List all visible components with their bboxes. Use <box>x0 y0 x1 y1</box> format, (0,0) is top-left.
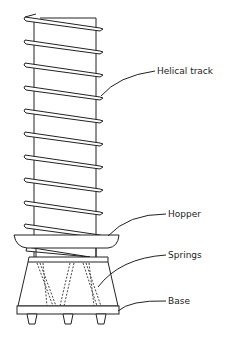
label-hopper: Hopper <box>168 209 201 219</box>
label-base: Base <box>168 296 190 306</box>
leader-helical-track <box>101 71 155 96</box>
foot <box>27 314 37 324</box>
feeder-diagram: Helical track Hopper Springs Base <box>0 0 229 340</box>
label-springs: Springs <box>168 250 202 260</box>
leader-hopper <box>108 214 166 236</box>
label-helical-track: Helical track <box>157 66 214 76</box>
helical-track <box>24 14 103 257</box>
foot <box>96 314 106 324</box>
leader-base <box>118 301 166 311</box>
foot <box>63 314 73 324</box>
